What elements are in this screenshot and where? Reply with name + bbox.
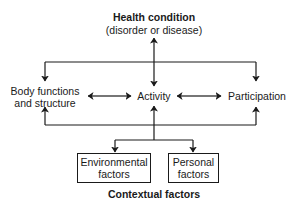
environmental-line1: Environmental — [80, 156, 147, 168]
activity-label: Activity — [134, 90, 174, 102]
health-condition-title: Health condition — [94, 11, 214, 23]
participation-label: Participation — [224, 90, 290, 102]
body-functions-line1: Body functions — [8, 85, 82, 97]
personal-factors-box: Personal factors — [168, 153, 219, 183]
personal-line1: Personal — [173, 156, 214, 168]
contextual-factors-title: Contextual factors — [94, 188, 214, 200]
body-functions-line2: and structure — [8, 97, 82, 109]
environmental-factors-box: Environmental factors — [77, 153, 151, 183]
personal-line2: factors — [173, 168, 214, 180]
body-functions-label: Body functions and structure — [8, 85, 82, 109]
health-condition-subtitle: (disorder or disease) — [94, 24, 214, 36]
environmental-line2: factors — [80, 168, 147, 180]
